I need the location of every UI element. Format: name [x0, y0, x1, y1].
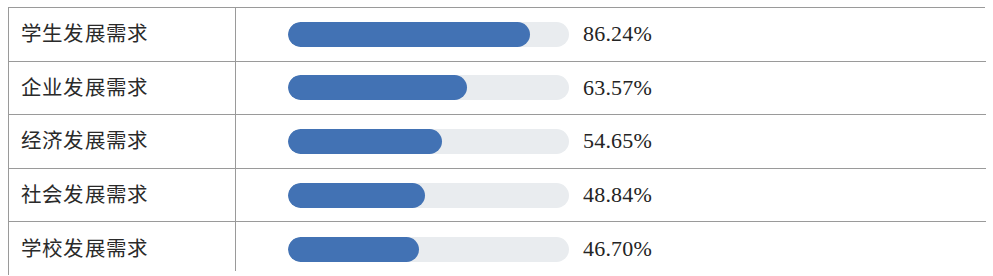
row-label-cell: 学校发展需求: [9, 222, 235, 276]
table-row: 学校发展需求46.70%: [9, 222, 986, 276]
progress-table: 学生发展需求86.24%企业发展需求63.57%经济发展需求54.65%社会发展…: [8, 7, 985, 275]
row-label: 学校发展需求: [21, 239, 148, 260]
row-bar-cell: 63.57%: [235, 62, 986, 115]
progress-bar-fill: [288, 22, 530, 47]
row-label-cell: 企业发展需求: [9, 62, 235, 115]
progress-bar-fill: [288, 129, 442, 154]
progress-bar-track: [288, 129, 569, 154]
table-row: 学生发展需求86.24%: [9, 8, 986, 62]
row-label: 经济发展需求: [21, 131, 148, 152]
percent-value: 86.24%: [583, 23, 652, 45]
percent-value: 63.57%: [583, 77, 652, 99]
progress-bar-track: [288, 237, 569, 262]
row-label: 社会发展需求: [21, 185, 148, 206]
row-label-cell: 学生发展需求: [9, 8, 235, 61]
row-bar-cell: 48.84%: [235, 169, 986, 222]
table-row: 企业发展需求63.57%: [9, 62, 986, 116]
percent-value: 48.84%: [583, 184, 652, 206]
table-row: 经济发展需求54.65%: [9, 115, 986, 169]
row-bar-cell: 54.65%: [235, 115, 986, 168]
progress-bar-track: [288, 22, 569, 47]
progress-bar-fill: [288, 183, 425, 208]
row-label-cell: 经济发展需求: [9, 115, 235, 168]
row-bar-cell: 46.70%: [235, 222, 986, 276]
row-label: 学生发展需求: [21, 24, 148, 45]
row-label: 企业发展需求: [21, 78, 148, 99]
percent-value: 54.65%: [583, 130, 652, 152]
row-label-cell: 社会发展需求: [9, 169, 235, 222]
row-bar-cell: 86.24%: [235, 8, 986, 61]
progress-bar-track: [288, 183, 569, 208]
table-row: 社会发展需求48.84%: [9, 169, 986, 223]
progress-bar-fill: [288, 237, 419, 262]
percent-value: 46.70%: [583, 238, 652, 260]
table-body: 学生发展需求86.24%企业发展需求63.57%经济发展需求54.65%社会发展…: [9, 8, 986, 276]
progress-bar-track: [288, 75, 569, 100]
progress-bar-fill: [288, 75, 467, 100]
